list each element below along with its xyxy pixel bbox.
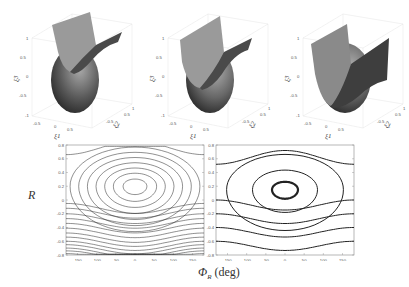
tick-label: 0.5 xyxy=(338,127,344,132)
x-tick-label: -100 xyxy=(242,258,251,261)
tick-label: 1 xyxy=(132,106,135,111)
x-axis-label: ξ1 xyxy=(190,132,197,140)
tick-label: -1 xyxy=(161,113,165,118)
z-axis-label: ξ3 xyxy=(148,75,156,82)
tick-label: 0 xyxy=(26,74,29,79)
y-tick-label: -0.2 xyxy=(57,211,65,216)
z-axis-label: ξ3 xyxy=(12,75,20,82)
x-axis-symbol: Φ xyxy=(198,265,207,279)
tick-label: 0 xyxy=(190,124,193,129)
y-tick-label: 0.4 xyxy=(208,170,214,175)
tick-label: 1 xyxy=(26,36,29,41)
tick-label: 1 xyxy=(297,36,300,41)
tick-label: -1 xyxy=(25,113,29,118)
tick-label: 0.5 xyxy=(395,112,401,117)
tick-label: 0.5 xyxy=(67,127,73,132)
tick-label: 0.5 xyxy=(260,112,266,117)
y-tick-label: 0.2 xyxy=(58,184,64,189)
y-tick-label: -0.6 xyxy=(207,239,215,244)
y-tick-label: -0.4 xyxy=(207,225,215,230)
y-tick-label: 0.6 xyxy=(208,156,214,161)
x-tick-label: 150 xyxy=(339,258,347,261)
tick-label: 0.5 xyxy=(124,112,130,117)
x-tick-label: -150 xyxy=(73,258,82,261)
y-tick-label: -0.6 xyxy=(57,239,65,244)
y-tick-label: -0.4 xyxy=(57,225,65,230)
surface-plot-2-svg: 1 0.5 0 -0.5 -1 -0.5 0 0.5 1 0.5 -0.5 ξ3… xyxy=(138,0,274,148)
y-tick-label: 0.8 xyxy=(58,143,64,148)
tick-label: 0 xyxy=(54,124,57,129)
tick-label: 0 xyxy=(297,74,300,79)
x-axis-label: ξ1 xyxy=(325,132,332,140)
x-tick-label: 100 xyxy=(170,258,178,261)
contour-plot-left: 0.80.60.40.20-0.2-0.4-0.6-0.8-150-100-50… xyxy=(52,141,208,261)
x-tick-label: -150 xyxy=(223,258,232,261)
x-tick-label: -50 xyxy=(113,258,120,261)
surface-plot-3: 1 0.5 0 -0.5 -1 -0.5 0 0.5 1 0.5 -0.5 ξ3… xyxy=(273,0,409,148)
x-tick-label: 50 xyxy=(302,258,307,261)
tick-label: -0.5 xyxy=(33,121,41,126)
y-axis-label: ξ2 xyxy=(383,120,393,130)
contour-plot-left-svg: 0.80.60.40.20-0.2-0.4-0.6-0.8-150-100-50… xyxy=(52,141,208,261)
x-tick-label: -100 xyxy=(92,258,101,261)
y-axis-label: ξ2 xyxy=(112,120,122,130)
y-tick-label: 0.2 xyxy=(208,184,214,189)
x-tick-label: -50 xyxy=(263,258,270,261)
surface-plot-1: 1 0.5 0 -0.5 -1 -0.5 0 0.5 1 0.5 -0.5 ξ3… xyxy=(2,0,138,148)
tick-label: 0.5 xyxy=(156,55,162,60)
x-axis-label: ξ1 xyxy=(54,132,61,140)
x-axis-unit: (deg) xyxy=(214,265,239,279)
tick-label: -0.5 xyxy=(169,121,177,126)
x-axis-subscript: R xyxy=(207,273,211,281)
tick-label: -0.5 xyxy=(290,93,298,98)
tick-label: 0.5 xyxy=(20,55,26,60)
tick-label: -0.5 xyxy=(19,93,27,98)
tick-label: 1 xyxy=(268,106,271,111)
tick-label: -0.5 xyxy=(155,93,163,98)
contour-plot-right: 0.80.60.40.20-0.2-0.4-0.6-0.8-150-100-50… xyxy=(202,141,358,261)
x-tick-label: 0 xyxy=(284,258,287,261)
y-tick-label: 0.4 xyxy=(58,170,64,175)
y-tick-label: 0.8 xyxy=(208,143,214,148)
contour-plot-right-svg: 0.80.60.40.20-0.2-0.4-0.6-0.8-150-100-50… xyxy=(202,141,358,261)
x-tick-label: 50 xyxy=(152,258,157,261)
y-tick-label: 0 xyxy=(212,198,215,203)
tick-label: 0.5 xyxy=(203,127,209,132)
tick-label: 1 xyxy=(162,36,165,41)
x-tick-label: 100 xyxy=(320,258,328,261)
tick-label: 0.5 xyxy=(291,55,297,60)
y-tick-label: -0.2 xyxy=(207,211,215,216)
surface-plot-3-svg: 1 0.5 0 -0.5 -1 -0.5 0 0.5 1 0.5 -0.5 ξ3… xyxy=(273,0,409,148)
x-axis-label: ΦR (deg) xyxy=(198,265,240,281)
surface-plot-2: 1 0.5 0 -0.5 -1 -0.5 0 0.5 1 0.5 -0.5 ξ3… xyxy=(138,0,274,148)
tick-label: 1 xyxy=(403,106,406,111)
y-tick-label: 0 xyxy=(62,198,65,203)
z-axis-label: ξ3 xyxy=(283,75,291,82)
y-tick-label: 0.6 xyxy=(58,156,64,161)
tick-label: 0 xyxy=(325,124,328,129)
tick-label: 0 xyxy=(162,74,165,79)
tick-label: -1 xyxy=(296,113,300,118)
surface-plot-1-svg: 1 0.5 0 -0.5 -1 -0.5 0 0.5 1 0.5 -0.5 ξ3… xyxy=(2,0,138,148)
y-tick-label: -0.8 xyxy=(207,253,215,258)
plot-area xyxy=(66,145,204,255)
x-tick-label: 0 xyxy=(134,258,137,261)
tick-label: -0.5 xyxy=(304,121,312,126)
y-tick-label: -0.8 xyxy=(57,253,65,258)
y-axis-label: ξ2 xyxy=(248,120,258,130)
x-tick-label: 150 xyxy=(189,258,197,261)
y-axis-label: R xyxy=(28,188,35,203)
